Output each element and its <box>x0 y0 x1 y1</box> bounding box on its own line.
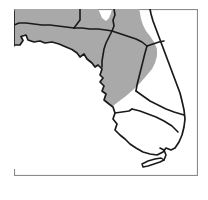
map-figure <box>0 0 208 200</box>
map-border-frame <box>14 9 198 176</box>
florida-map-svg <box>14 9 198 176</box>
